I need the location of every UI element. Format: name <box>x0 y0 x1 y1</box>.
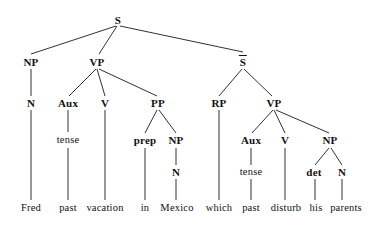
tree-leaf-l5: Mexico <box>160 203 193 214</box>
tree-edge-vp2-to-aux2 <box>252 110 273 133</box>
tree-node-prep: prep <box>134 135 157 146</box>
tree-edge-pp-to-np2 <box>159 110 176 133</box>
tree-edge-s-to-sbar <box>120 26 243 52</box>
tree-edge-vp1-to-v1 <box>97 69 105 96</box>
tree-node-pp: PP <box>151 98 165 109</box>
tree-edge-vp1-to-pp <box>99 69 157 96</box>
tree-node-tense2: tense <box>240 167 263 178</box>
tree-node-v2: V <box>281 135 289 146</box>
tree-node-n1: N <box>27 98 35 109</box>
tree-node-s: S <box>115 15 121 26</box>
overbar-mark <box>239 55 247 56</box>
tree-node-np1: NP <box>23 57 38 68</box>
tree-edge-pp-to-prep <box>145 110 157 133</box>
tree-leaf-l2: past <box>59 203 77 214</box>
tree-edge-sbar-to-rp <box>219 69 242 96</box>
syntax-tree-diagram: SNPVPSNAuxVPPRPVPtenseprepNPAuxVNPNtense… <box>0 0 377 225</box>
tree-edges-layer <box>0 0 377 225</box>
node-text: S <box>240 56 246 68</box>
tree-node-tense1: tense <box>57 135 80 146</box>
tree-node-v1: V <box>101 98 109 109</box>
tree-node-n2: N <box>172 167 180 178</box>
tree-node-det: det <box>306 167 321 178</box>
tree-leaf-l1: Fred <box>21 203 41 214</box>
tree-edge-s-to-np1 <box>31 26 116 54</box>
tree-leaf-l8: disturb <box>271 203 302 214</box>
tree-leaf-l7: past <box>242 203 260 214</box>
tree-node-rp: RP <box>211 98 226 109</box>
tree-node-np3: NP <box>322 135 337 146</box>
tree-node-aux2: Aux <box>241 135 261 146</box>
tree-leaf-l10: parents <box>330 203 362 214</box>
tree-edge-np3-to-n3 <box>331 148 342 165</box>
tree-edge-s-to-vp1 <box>99 26 117 54</box>
tree-edge-sbar-to-vp2 <box>244 69 272 96</box>
tree-node-vp1: VP <box>89 57 104 68</box>
tree-node-aux1: Aux <box>58 98 78 109</box>
sbar-node-text: S <box>240 56 246 68</box>
tree-leaf-l3: vacation <box>86 203 123 214</box>
tree-edge-vp2-to-np3 <box>276 110 329 133</box>
tree-leaf-l4: in <box>141 203 150 214</box>
tree-edge-vp1-to-aux1 <box>69 69 96 96</box>
tree-node-sbar: S <box>240 56 246 68</box>
tree-node-np2: NP <box>168 135 183 146</box>
tree-leaf-l9: his <box>310 203 323 214</box>
tree-edge-np3-to-det <box>315 148 329 165</box>
tree-node-n3: N <box>338 167 346 178</box>
tree-node-vp2: VP <box>266 98 281 109</box>
tree-leaf-l6: which <box>206 203 233 214</box>
